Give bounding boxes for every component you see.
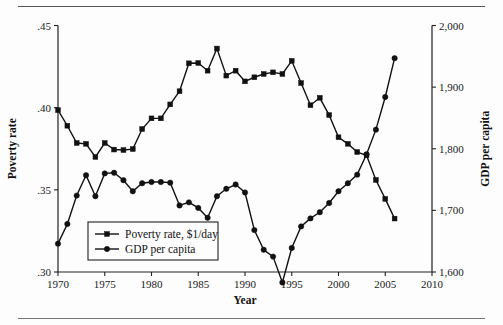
data-point: [74, 193, 79, 198]
data-point: [74, 141, 79, 146]
x-axis-title: Year: [234, 294, 257, 306]
data-point: [374, 178, 379, 183]
data-point: [345, 181, 350, 186]
data-point: [205, 215, 210, 220]
data-point: [270, 254, 275, 259]
y-right-tick-label: 1,600: [439, 266, 464, 278]
x-tick-label: 1970: [47, 278, 70, 290]
legend-marker-square: [105, 232, 110, 237]
data-point: [336, 189, 341, 194]
data-point: [289, 245, 294, 250]
data-point: [224, 73, 229, 78]
figure-container: 197019751980198519901995200020052010.30.…: [0, 0, 503, 325]
data-point: [289, 58, 294, 63]
data-point: [383, 94, 388, 99]
data-point: [149, 179, 154, 184]
data-point: [308, 103, 313, 108]
data-point: [196, 61, 201, 66]
data-point: [187, 61, 192, 66]
legend-label: GDP per capita: [125, 243, 195, 256]
data-point: [364, 152, 369, 157]
chart-plot-area: 197019751980198519901995200020052010.30.…: [0, 0, 503, 325]
x-tick-label: 1990: [234, 278, 257, 290]
data-point: [83, 173, 88, 178]
data-point: [139, 181, 144, 186]
y-right-tick-label: 2,000: [439, 20, 464, 32]
data-point: [177, 89, 182, 94]
data-point: [205, 68, 210, 73]
data-point: [56, 108, 61, 113]
data-point: [326, 200, 331, 205]
data-point: [317, 210, 322, 215]
data-point: [140, 127, 145, 132]
data-point: [112, 147, 117, 152]
chart-legend: Poverty rate, $1/dayGDP per capita: [88, 222, 218, 260]
data-point: [261, 72, 266, 77]
data-point: [373, 127, 378, 132]
x-tick-label: 1975: [94, 278, 117, 290]
data-point: [196, 205, 201, 210]
data-point: [345, 141, 350, 146]
data-point: [102, 141, 107, 146]
data-point: [214, 194, 219, 199]
x-tick-label: 1985: [187, 278, 210, 290]
data-point: [84, 141, 89, 146]
data-point: [121, 148, 126, 153]
line-chart-svg: 197019751980198519901995200020052010.30.…: [0, 0, 503, 325]
data-point: [158, 179, 163, 184]
data-point: [158, 116, 163, 121]
y-left-tick-label: .45: [37, 20, 51, 32]
data-point: [252, 227, 257, 232]
data-point: [327, 113, 332, 118]
data-point: [177, 203, 182, 208]
y-left-tick-label: .30: [37, 266, 51, 278]
data-point: [130, 189, 135, 194]
x-tick-label: 2005: [374, 278, 397, 290]
data-point: [55, 241, 60, 246]
y-right-tick-label: 1,700: [439, 204, 464, 216]
data-point: [130, 147, 135, 152]
data-point: [271, 70, 276, 75]
data-point: [383, 196, 388, 201]
data-point: [93, 194, 98, 199]
data-point: [215, 46, 220, 51]
data-point: [252, 75, 257, 80]
data-point: [317, 95, 322, 100]
y-right-tick-label: 1,800: [439, 143, 464, 155]
data-point: [224, 186, 229, 191]
data-point: [336, 135, 341, 140]
data-point: [65, 221, 70, 226]
legend-label: Poverty rate, $1/day: [125, 228, 218, 241]
data-point: [186, 200, 191, 205]
data-point: [299, 81, 304, 86]
data-point: [308, 216, 313, 221]
data-point: [121, 177, 126, 182]
data-point: [168, 102, 173, 107]
x-tick-label: 2010: [421, 278, 444, 290]
data-point: [111, 170, 116, 175]
legend-marker-circle: [104, 246, 109, 251]
data-point: [280, 72, 285, 77]
data-point: [102, 171, 107, 176]
data-point: [392, 55, 397, 60]
data-point: [392, 216, 397, 221]
data-point: [168, 180, 173, 185]
data-point: [261, 247, 266, 252]
x-tick-label: 1980: [141, 278, 164, 290]
y-right-tick-label: 1,900: [439, 81, 464, 93]
data-point: [149, 116, 154, 121]
x-tick-label: 2000: [328, 278, 351, 290]
data-point: [233, 182, 238, 187]
data-point: [298, 224, 303, 229]
y-left-tick-label: .40: [37, 102, 51, 114]
data-point: [280, 280, 285, 285]
data-point: [65, 123, 70, 128]
data-point: [242, 190, 247, 195]
data-point: [233, 68, 238, 73]
data-point: [93, 155, 98, 160]
y2-axis-title: GDP per capita: [479, 111, 492, 187]
data-point: [355, 150, 360, 155]
data-point: [243, 79, 248, 84]
data-point: [355, 172, 360, 177]
y-axis-title: Poverty rate: [6, 118, 19, 179]
